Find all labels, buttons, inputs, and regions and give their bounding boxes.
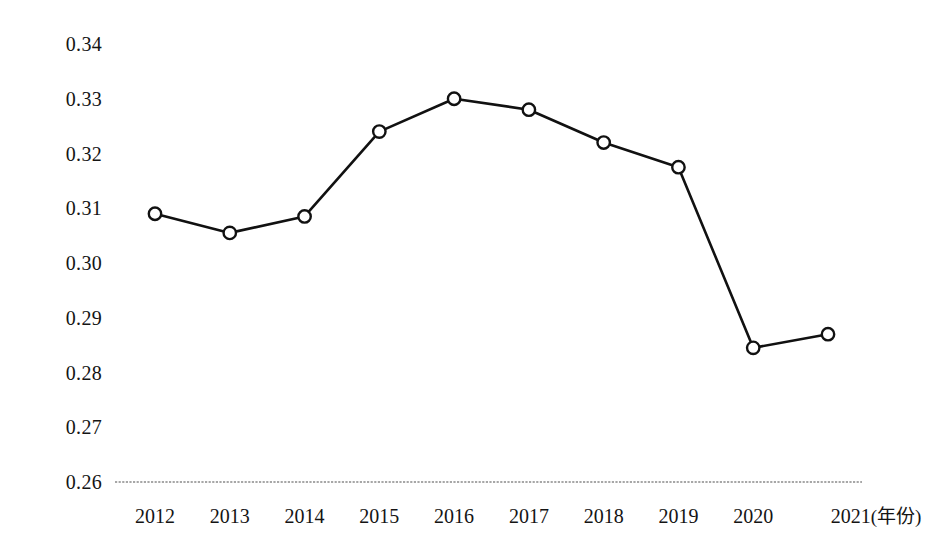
x-tick-value: 2020 — [733, 505, 773, 527]
x-tick-label: 2012 — [135, 505, 175, 527]
x-tick-label: 2014 — [285, 505, 325, 527]
x-tick-label: 2016 — [434, 505, 474, 527]
x-tick-label: 2013 — [210, 505, 250, 527]
x-tick-label: 2018 — [584, 505, 624, 527]
x-tick-value: 2013 — [210, 505, 250, 527]
x-axis-unit-label: (年份) — [871, 506, 922, 527]
x-tick-label: 2019 — [658, 505, 698, 527]
x-tick-value: 2014 — [285, 505, 325, 527]
x-tick-value: 2015 — [359, 505, 399, 527]
x-tick-label: 2017 — [509, 505, 549, 527]
x-tick-value: 2021 — [831, 505, 871, 527]
x-tick-value: 2016 — [434, 505, 474, 527]
x-axis: 2012201320142015201620172018201920202021… — [0, 0, 946, 558]
x-tick-value: 2012 — [135, 505, 175, 527]
x-tick-value: 2017 — [509, 505, 549, 527]
x-tick-label: 2020 — [733, 505, 773, 527]
x-tick-value: 2019 — [658, 505, 698, 527]
x-tick-label: 2015 — [359, 505, 399, 527]
x-tick-value: 2018 — [584, 505, 624, 527]
line-chart: 0.340.330.320.310.300.290.280.270.26 201… — [0, 0, 946, 558]
x-tick-label: 2021(年份) — [831, 505, 922, 528]
